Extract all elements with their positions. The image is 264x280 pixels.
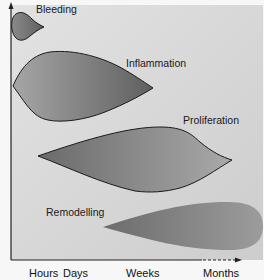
x-tick-weeks: Weeks xyxy=(126,267,159,279)
x-tick-months: Months xyxy=(203,267,239,279)
label-inflammation: Inflammation xyxy=(126,57,186,69)
label-proliferation: Proliferation xyxy=(183,114,239,126)
label-remodelling: Remodelling xyxy=(46,206,104,218)
x-tick-hours: Hours xyxy=(29,267,58,279)
x-tick-days: Days xyxy=(63,267,88,279)
wound-healing-diagram xyxy=(0,0,264,280)
label-bleeding: Bleeding xyxy=(36,3,77,15)
